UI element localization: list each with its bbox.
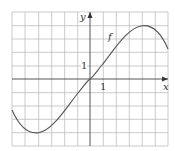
y-tick-label: 1 xyxy=(81,61,87,71)
y-axis-arrow-icon xyxy=(88,12,93,18)
y-axis-label: y xyxy=(80,12,86,22)
function-graph xyxy=(0,0,175,151)
function-label: f xyxy=(108,32,112,42)
x-tick-label: 1 xyxy=(100,82,106,92)
x-axis-label: x xyxy=(163,82,169,92)
